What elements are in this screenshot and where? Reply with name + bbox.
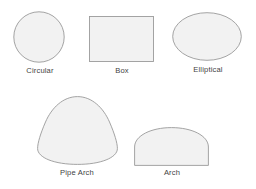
shape-elliptical <box>172 12 242 61</box>
box-shape-icon <box>89 16 154 62</box>
arch-shape-icon <box>134 127 209 166</box>
shape-box <box>89 16 154 62</box>
shape-label-circular: Circular <box>0 66 80 75</box>
culvert-shape-figure: Circular Box Elliptical Pipe Arch Arch <box>0 0 256 189</box>
pipe-arch-shape-icon <box>37 96 118 165</box>
elliptical-shape-icon <box>172 12 242 61</box>
shape-label-pipe-arch: Pipe Arch <box>36 168 118 177</box>
circular-shape-icon <box>13 11 65 63</box>
shape-arch <box>134 127 209 166</box>
shape-label-elliptical: Elliptical <box>172 65 244 74</box>
shape-circular <box>13 11 65 63</box>
shape-label-box: Box <box>86 66 158 75</box>
shape-label-arch: Arch <box>134 168 210 177</box>
shape-pipe-arch <box>37 96 118 165</box>
